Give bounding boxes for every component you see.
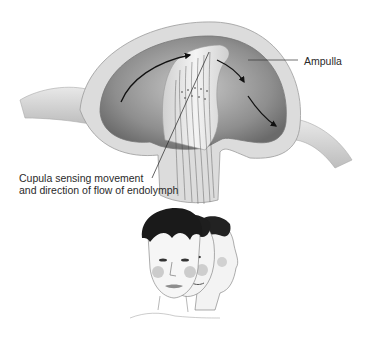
- head-rotation-illustration: [130, 208, 238, 318]
- eye-icon: [159, 258, 167, 261]
- cupula-label: Cupula sensing movement and direction of…: [19, 172, 178, 196]
- cupula-label-line-1: Cupula sensing movement: [19, 172, 178, 184]
- ampulla-diagram: [0, 0, 367, 338]
- cupula-label-line-2: and direction of flow of endolymph: [19, 184, 178, 196]
- ampulla-label: Ampulla: [304, 55, 342, 67]
- eye-icon: [181, 258, 189, 261]
